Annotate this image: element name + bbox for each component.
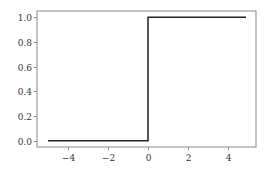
series-line-step: [48, 17, 246, 141]
axes-border: [37, 11, 256, 147]
x-tick-label: 2: [186, 153, 192, 163]
y-tick-label: 1.0: [18, 13, 33, 23]
y-axis-ticks: 0.00.20.40.60.81.0: [18, 13, 37, 147]
y-tick-label: 0.0: [18, 137, 33, 147]
step-function-chart: −4−2024 0.00.20.40.60.81.0: [0, 0, 271, 170]
y-tick-label: 0.8: [18, 38, 33, 48]
y-tick-label: 0.4: [18, 87, 33, 97]
x-tick-label: 0: [146, 153, 152, 163]
x-tick-label: 4: [226, 153, 232, 163]
x-tick-label: −2: [102, 153, 115, 163]
y-tick-label: 0.2: [18, 112, 32, 122]
axes-frame: [37, 11, 256, 147]
x-tick-label: −4: [62, 153, 76, 163]
x-axis-ticks: −4−2024: [62, 147, 232, 163]
plot-series: [48, 17, 246, 141]
y-tick-label: 0.6: [18, 63, 33, 73]
